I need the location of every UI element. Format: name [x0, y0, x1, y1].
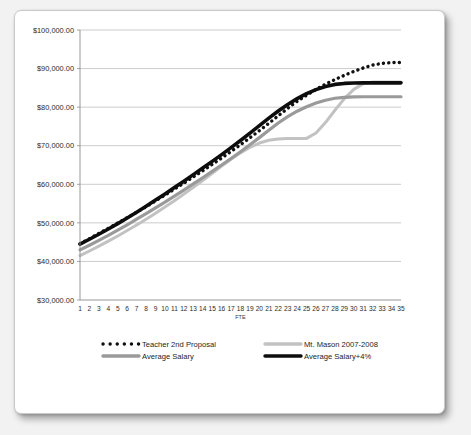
x-axis-tick-label: 29 — [341, 305, 349, 312]
y-axis-tick-label: $80,000.00 — [37, 103, 74, 112]
salary-line-chart: $100,000.00$90,000.00$80,000.00$70,000.0… — [15, 11, 444, 413]
y-axis-tick-label: $30,000.00 — [37, 296, 74, 305]
legend: Teacher 2nd ProposalMt. Mason 2007-2008A… — [103, 340, 378, 361]
legend-item: Average Salary — [103, 352, 194, 361]
x-axis-tick-label: 20 — [256, 305, 264, 312]
x-axis-tick-label: 27 — [322, 305, 330, 312]
x-axis-tick-label: 4 — [106, 305, 110, 312]
x-axis-tick-label: 31 — [360, 305, 368, 312]
y-axis-tick-label: $70,000.00 — [37, 141, 74, 150]
y-axis-tick-label: $40,000.00 — [37, 257, 74, 266]
gridlines-group — [80, 30, 401, 261]
x-axis-tick-label: 32 — [369, 305, 377, 312]
y-axis-tick-label: $100,000.00 — [33, 26, 74, 35]
x-axis-tick-label: 16 — [218, 305, 226, 312]
legend-item: Average Salary+4% — [265, 352, 371, 361]
x-axis-tick-label: 15 — [209, 305, 217, 312]
x-axis-tick-label: 21 — [265, 305, 273, 312]
x-axis-tick-label: 11 — [171, 305, 178, 312]
legend-item: Teacher 2nd Proposal — [103, 340, 216, 349]
x-axis-tick-label: 3 — [97, 305, 101, 312]
x-axis-tick-label: 7 — [135, 305, 139, 312]
x-axis-tick-label: 22 — [275, 305, 283, 312]
x-axis-tick-label: 33 — [378, 305, 386, 312]
x-axis-tick-label: 2 — [88, 305, 92, 312]
x-axis-tick-label: 19 — [246, 305, 254, 312]
series-line — [80, 97, 401, 250]
x-axis-tick-label: 12 — [180, 305, 188, 312]
chart-card: $100,000.00$90,000.00$80,000.00$70,000.0… — [14, 10, 445, 414]
x-axis-tick-label: 8 — [144, 305, 148, 312]
x-axis-tick-label: 28 — [331, 305, 339, 312]
x-axis-labels-group: 1234567891011121314151617181920212223242… — [78, 305, 405, 312]
x-axis-tick-label: 25 — [303, 305, 311, 312]
x-axis-tick-label: 23 — [284, 305, 292, 312]
x-axis-tick-label: 34 — [388, 305, 396, 312]
x-axis-tick-label: 13 — [190, 305, 198, 312]
x-axis-tick-label: 14 — [199, 305, 207, 312]
y-axis-labels-group: $100,000.00$90,000.00$80,000.00$70,000.0… — [33, 26, 74, 305]
legend-label: Teacher 2nd Proposal — [142, 340, 216, 349]
legend-label: Mt. Mason 2007-2008 — [304, 340, 378, 349]
y-axis-tick-label: $60,000.00 — [37, 180, 74, 189]
y-axis-tick-label: $90,000.00 — [37, 64, 74, 73]
x-axis-tick-label: 10 — [161, 305, 169, 312]
x-axis-tick-label: 26 — [312, 305, 320, 312]
legend-item: Mt. Mason 2007-2008 — [265, 340, 378, 349]
x-axis-tick-label: 17 — [227, 305, 235, 312]
legend-label: Average Salary — [142, 352, 194, 361]
x-axis-tick-label: 5 — [116, 305, 120, 312]
x-axis-tick-label: 35 — [397, 305, 405, 312]
x-axis-tick-label: 24 — [293, 305, 301, 312]
series-line — [80, 82, 401, 256]
series-group — [80, 62, 401, 255]
x-axis-title: FTE — [235, 314, 246, 320]
chart-svg: $100,000.00$90,000.00$80,000.00$70,000.0… — [15, 11, 444, 413]
legend-label: Average Salary+4% — [304, 352, 371, 361]
y-axis-tick-label: $50,000.00 — [37, 219, 74, 228]
x-axis-tick-label: 1 — [78, 305, 82, 312]
x-axis-tick-label: 9 — [154, 305, 158, 312]
x-axis-tick-label: 30 — [350, 305, 358, 312]
x-axis-tick-label: 6 — [125, 305, 129, 312]
x-axis-tick-label: 18 — [237, 305, 245, 312]
